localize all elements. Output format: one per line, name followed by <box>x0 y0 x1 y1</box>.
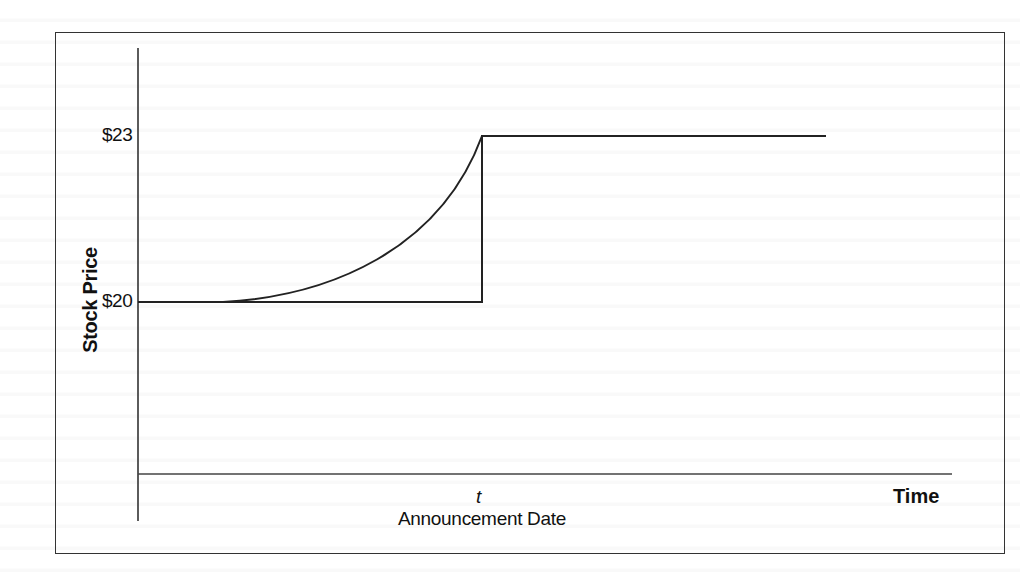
announcement-date-label: Announcement Date <box>398 508 566 530</box>
y-axis-label: Stock Price <box>79 247 102 353</box>
x-axis-label: Time <box>893 485 939 508</box>
stock-price-chart <box>0 0 1020 585</box>
gradual-runup-curve <box>223 136 482 302</box>
y-tick-20: $20 <box>102 290 132 312</box>
y-tick-23: $23 <box>102 124 132 146</box>
instant-adjustment-line <box>138 136 826 302</box>
announcement-time-symbol: t <box>476 486 481 508</box>
